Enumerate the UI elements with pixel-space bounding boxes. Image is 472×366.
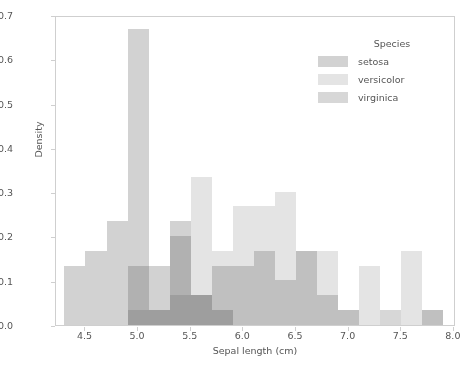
histogram-bar bbox=[212, 266, 233, 325]
x-tick-label: 4.5 bbox=[64, 330, 104, 341]
histogram-figure: Density 0.00.10.20.30.40.50.60.7 4.55.05… bbox=[0, 0, 472, 366]
x-tick-mark bbox=[190, 327, 191, 331]
x-tick-label: 7.5 bbox=[380, 330, 420, 341]
histogram-bar bbox=[149, 310, 170, 325]
x-tick-mark bbox=[242, 327, 243, 331]
legend-swatch-icon bbox=[318, 56, 348, 67]
histogram-bar bbox=[380, 310, 401, 325]
x-tick-mark bbox=[84, 327, 85, 331]
histogram-bar bbox=[338, 310, 359, 325]
legend: Species setosaversicolorvirginica bbox=[318, 38, 450, 110]
y-tick-label: 0.1 bbox=[0, 276, 13, 287]
x-tick-label: 5.5 bbox=[170, 330, 210, 341]
legend-label: versicolor bbox=[358, 74, 404, 85]
legend-entries: setosaversicolorvirginica bbox=[318, 56, 450, 103]
x-tick-label: 6.5 bbox=[275, 330, 315, 341]
histogram-bar bbox=[233, 266, 254, 325]
legend-label: virginica bbox=[358, 92, 398, 103]
y-tick-mark bbox=[51, 326, 55, 327]
histogram-bar bbox=[107, 221, 128, 325]
y-tick-label: 0.7 bbox=[0, 10, 13, 21]
legend-swatch-icon bbox=[318, 74, 348, 85]
y-tick-label: 0.4 bbox=[0, 143, 13, 154]
x-tick-label: 6.0 bbox=[222, 330, 262, 341]
x-tick-label: 8.0 bbox=[433, 330, 472, 341]
histogram-bar bbox=[191, 295, 212, 325]
x-tick-mark bbox=[295, 327, 296, 331]
histogram-bar bbox=[85, 251, 106, 325]
legend-title: Species bbox=[318, 38, 450, 49]
histogram-bar bbox=[359, 266, 380, 325]
y-tick-label: 0.5 bbox=[0, 99, 13, 110]
x-tick-mark bbox=[137, 327, 138, 331]
y-tick-label: 0.0 bbox=[0, 320, 13, 331]
histogram-bar bbox=[422, 310, 443, 325]
x-tick-label: 5.0 bbox=[117, 330, 157, 341]
histogram-bar bbox=[401, 251, 422, 325]
legend-label: setosa bbox=[358, 56, 389, 67]
x-axis-label: Sepal length (cm) bbox=[55, 345, 455, 356]
legend-item-versicolor[interactable]: versicolor bbox=[318, 74, 450, 85]
y-tick-label: 0.3 bbox=[0, 187, 13, 198]
histogram-bar bbox=[128, 266, 149, 325]
x-tick-label: 7.0 bbox=[328, 330, 368, 341]
legend-item-setosa[interactable]: setosa bbox=[318, 56, 450, 67]
legend-swatch-icon bbox=[318, 92, 348, 103]
x-tick-mark bbox=[400, 327, 401, 331]
legend-item-virginica[interactable]: virginica bbox=[318, 92, 450, 103]
x-tick-mark bbox=[348, 327, 349, 331]
histogram-bar bbox=[170, 236, 191, 325]
y-tick-label: 0.2 bbox=[0, 231, 13, 242]
histogram-bar bbox=[254, 251, 275, 325]
histogram-bar bbox=[296, 251, 317, 325]
histogram-bar bbox=[275, 280, 296, 325]
histogram-bar bbox=[317, 295, 338, 325]
y-tick-label: 0.6 bbox=[0, 54, 13, 65]
x-tick-mark bbox=[453, 327, 454, 331]
y-axis-label: Density bbox=[33, 100, 44, 180]
histogram-bar bbox=[64, 266, 85, 325]
